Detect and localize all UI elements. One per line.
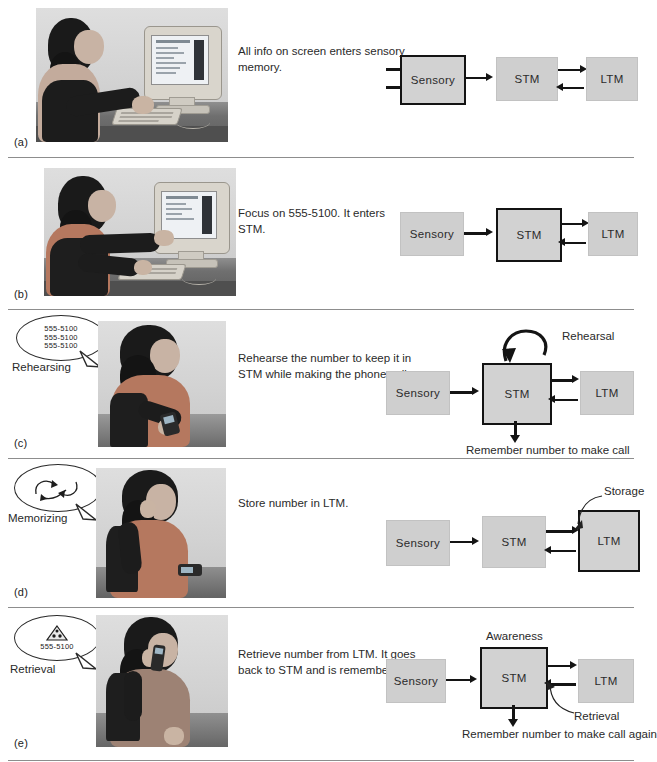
bubble-line-3: 555-5100 [44,342,77,351]
mobile-phone-icon [178,564,202,576]
swirl-arrows-icon [28,472,88,504]
box-ltm: LTM [588,212,638,256]
panel-e-diagram: Awareness Sensory STM LTM Retrieval Reme… [386,617,636,747]
pizza-slice-icon [45,625,69,642]
retrieval-label: Retrieval [574,709,619,724]
monitor-icon [144,26,222,100]
panel-c-photo [98,321,226,447]
box-sensory: Sensory [386,659,446,703]
panel-c-label: (c) [14,437,27,449]
box-ltm: LTM [586,57,638,101]
panel-e: 555-5100 Retrieval Retrieve number from … [0,607,642,762]
panel-b: Focus on 555-5100. It enters STM. Sensor… [0,158,642,310]
panel-d-label: (d) [14,586,28,598]
panel-b-photo [44,168,236,296]
panel-e-divider [8,760,634,761]
panel-d-state-label: Memorizing [8,512,67,524]
box-sensory: Sensory [400,212,464,256]
panel-e-photo [96,615,228,747]
panel-b-label: (b) [14,288,28,300]
panel-c-state-label: Rehearsing [12,361,71,373]
panel-d: Memorizing Store number in LTM. Sensory … [0,458,642,608]
panel-d-photo [96,468,226,598]
rehearsal-loop-icon [498,329,560,363]
panel-a-diagram: Sensory STM LTM [386,55,636,107]
panel-e-label: (e) [14,737,28,749]
panel-a-label: (a) [14,136,28,148]
panel-a: All info on screen enters sensory memory… [0,0,642,158]
box-stm: STM [482,516,546,568]
box-sensory: Sensory [386,520,450,566]
awareness-label: Awareness [486,629,543,644]
panel-e-state-label: Retrieval [10,663,55,675]
output-label: Remember number to make call again [462,727,657,742]
panel-c: 555-5100 555-5100 555-5100 Rehearsing Re… [0,309,642,459]
box-sensory: Sensory [386,371,450,415]
box-stm: STM [496,208,562,262]
storage-label: Storage [604,484,644,499]
storage-pointer-icon [562,492,608,532]
bubble-line-1: 555-5100 [40,643,73,652]
panel-d-diagram: Sensory STM LTM Storage [386,480,636,590]
output-label: Remember number to make call [466,443,630,458]
box-ltm: LTM [580,371,634,415]
box-stm: STM [480,647,548,709]
rehearsal-label: Rehearsal [562,329,614,344]
box-sensory: Sensory [400,55,466,105]
box-stm: STM [482,363,552,425]
box-stm: STM [496,57,558,101]
panel-b-diagram: Sensory STM LTM [386,208,636,260]
panel-a-photo [36,8,228,142]
panel-c-diagram: Rehearsal Sensory STM LTM Remember numbe… [386,323,636,453]
